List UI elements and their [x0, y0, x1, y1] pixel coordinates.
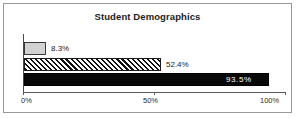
x-tick-mark-0 — [23, 92, 24, 95]
x-tick-mark-100 — [285, 92, 286, 95]
bar-label-series-1: 8.3% — [51, 42, 69, 55]
bar-label-series-3: 93.5% — [226, 73, 252, 86]
x-tick-label-0: 0% — [21, 96, 32, 105]
chart-frame: Student Demographics 8.3% 52.4% 93.5% 0%… — [3, 3, 292, 113]
bar-label-series-2: 52.4% — [166, 58, 189, 71]
x-tick-label-100: 100% — [260, 96, 279, 105]
x-tick-label-50: 50% — [143, 96, 158, 105]
x-tick-mark-50 — [154, 92, 155, 95]
bar-series-2[interactable] — [24, 58, 161, 71]
plot-area: 8.3% 52.4% 93.5% 0% 50% 100% — [23, 34, 286, 92]
chart-title: Student Demographics — [4, 11, 291, 22]
bar-series-1[interactable] — [24, 42, 46, 55]
